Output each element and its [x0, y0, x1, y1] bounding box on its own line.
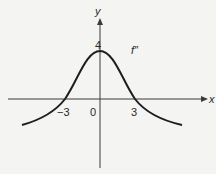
x-axis-label: x [208, 93, 215, 105]
f-double-prime-curve [22, 51, 182, 125]
chart-canvas: x y −3 0 3 4 f″ [0, 0, 216, 174]
y-axis-arrow-icon [97, 18, 103, 25]
y-axis-label: y [94, 5, 102, 17]
tick-label-y4: 4 [95, 39, 101, 51]
tick-label-neg3: −3 [57, 106, 70, 118]
tick-label-0: 0 [90, 106, 96, 118]
x-axis-arrow-icon [201, 96, 208, 102]
curve-label: f″ [131, 44, 139, 56]
tick-label-3: 3 [131, 106, 137, 118]
